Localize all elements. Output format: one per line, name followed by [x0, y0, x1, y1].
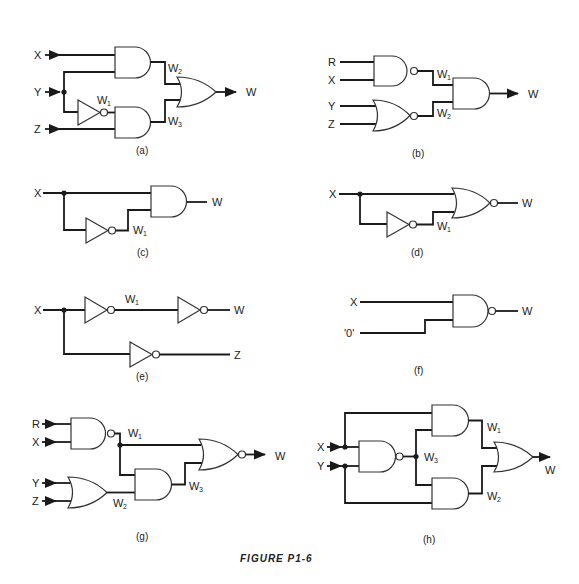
svg-text:3: 3 — [199, 486, 203, 493]
or-gate-icon — [494, 442, 533, 472]
input-z-label: Z — [328, 118, 335, 130]
svg-text:1: 1 — [135, 299, 139, 306]
inversion-bubble-icon — [108, 307, 115, 314]
caption-f: (f) — [414, 365, 423, 376]
svg-text:1: 1 — [143, 230, 147, 237]
svg-text:2: 2 — [123, 503, 127, 510]
and-gate-icon — [151, 186, 187, 217]
input-y-label: Y — [328, 100, 336, 112]
output-w-label: W — [246, 86, 257, 98]
and-gate-icon — [432, 478, 468, 509]
nand-gate-icon — [374, 56, 407, 86]
input-x-label: X — [32, 436, 40, 448]
svg-text:2: 2 — [178, 68, 182, 75]
circuit-g: R X W 1 Y Z W 2 W 3 W (g) — [32, 418, 286, 542]
inversion-bubble-icon — [109, 227, 116, 234]
output-w-label: W — [528, 88, 539, 100]
circuit-e: X W 1 W Z (e) — [34, 293, 245, 382]
output-z-label: Z — [234, 349, 241, 361]
svg-text:2: 2 — [447, 113, 451, 120]
and-gate-icon — [135, 469, 172, 500]
inversion-bubble-icon — [153, 351, 160, 358]
input-z-label: Z — [34, 123, 41, 135]
inversion-bubble-icon — [489, 308, 496, 315]
circuit-b: R X W 1 Y Z W 2 W (b) — [328, 56, 539, 159]
input-y-label: Y — [32, 477, 40, 489]
not-gate-icon — [85, 297, 107, 323]
input-zero-label: '0' — [344, 327, 354, 339]
wire — [64, 72, 115, 92]
input-x-label: X — [317, 441, 325, 453]
inversion-bubble-icon — [239, 451, 246, 458]
input-x-label: X — [34, 304, 42, 316]
nor-gate-icon — [373, 100, 410, 131]
output-w-label: W — [522, 305, 533, 317]
figure-caption: FIGURE P1-6 — [240, 553, 313, 564]
svg-text:3: 3 — [434, 457, 438, 464]
input-x-label: X — [34, 49, 42, 61]
circuit-a: X Y Z W 1 W 2 W 3 W (a) — [34, 47, 257, 156]
inversion-bubble-icon — [101, 109, 108, 116]
not-gate-icon — [387, 212, 409, 237]
input-x-label: X — [350, 296, 358, 308]
caption-a: (a) — [136, 145, 148, 156]
svg-text:1: 1 — [107, 100, 111, 107]
output-w-label: W — [545, 464, 556, 476]
circuit-c: X W 1 W (c) — [34, 186, 223, 258]
or-gate-icon — [177, 77, 216, 107]
inversion-bubble-icon — [396, 453, 403, 460]
inversion-bubble-icon — [108, 430, 115, 437]
output-w-label: W — [212, 196, 223, 208]
wire — [64, 92, 78, 112]
input-y-label: Y — [34, 86, 42, 98]
input-y-label: Y — [317, 460, 325, 472]
inversion-bubble-icon — [410, 221, 417, 228]
not-gate-icon — [86, 218, 108, 243]
nor-gate-icon — [452, 188, 490, 218]
nand-gate-icon — [453, 295, 488, 327]
inversion-bubble-icon — [491, 200, 498, 207]
circuit-h: X Y W 3 W 1 W 2 W (h) — [317, 405, 556, 545]
not-gate-icon — [178, 297, 200, 323]
inversion-bubble-icon — [201, 307, 208, 314]
input-z-label: Z — [32, 495, 39, 507]
input-x-label: X — [329, 188, 337, 200]
output-w-label: W — [522, 197, 533, 209]
inversion-bubble-icon — [411, 68, 418, 75]
svg-text:1: 1 — [497, 427, 501, 434]
circuit-f: X '0' W (f) — [344, 295, 533, 376]
nor-gate-icon — [199, 439, 238, 470]
output-w-label: W — [275, 450, 286, 462]
and-gate-icon — [432, 405, 468, 436]
inversion-bubble-icon — [411, 113, 418, 120]
caption-g: (g) — [136, 531, 148, 542]
svg-text:1: 1 — [447, 74, 451, 81]
not-gate-icon — [130, 342, 152, 367]
caption-d: (d) — [411, 247, 423, 258]
svg-text:1: 1 — [447, 226, 451, 233]
input-x-label: X — [34, 187, 42, 199]
logic-circuits-figure: X Y Z W 1 W 2 W 3 W (a) R — [0, 0, 579, 584]
svg-text:1: 1 — [138, 433, 142, 440]
input-r-label: R — [328, 56, 336, 68]
caption-c: (c) — [137, 247, 149, 258]
caption-h: (h) — [423, 534, 435, 545]
caption-e: (e) — [136, 371, 148, 382]
svg-text:3: 3 — [178, 121, 182, 128]
output-w-label: W — [234, 304, 245, 316]
caption-b: (b) — [412, 148, 424, 159]
nand-gate-icon — [71, 418, 105, 449]
input-r-label: R — [32, 418, 40, 430]
or-gate-icon — [68, 477, 107, 508]
input-x-label: X — [328, 74, 336, 86]
circuit-d: X W 1 W (d) — [329, 188, 533, 258]
and-gate-icon — [115, 47, 150, 78]
nand-gate-icon — [359, 441, 396, 472]
and-gate-icon — [115, 107, 150, 138]
and-gate-icon — [453, 78, 490, 109]
svg-text:2: 2 — [497, 496, 501, 503]
